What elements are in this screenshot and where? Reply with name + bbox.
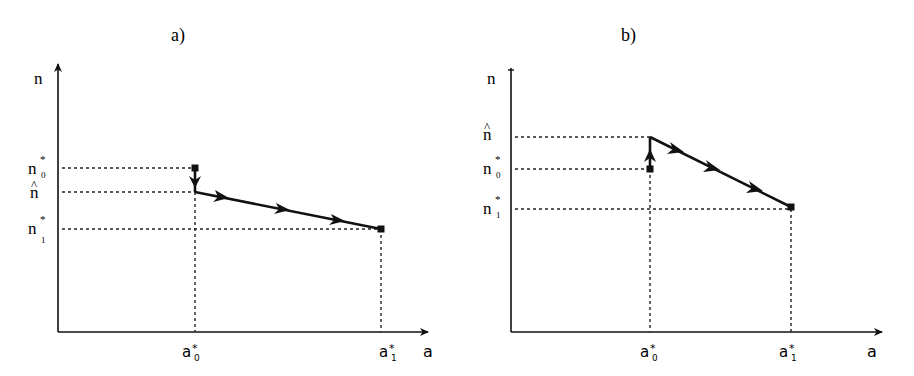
tick-a1-star: a * 1 [379,342,397,363]
svg-text:1: 1 [391,353,397,363]
panel-b-x-axis-label: a [867,342,877,361]
svg-text:n: n [483,199,492,218]
tick-n0-star: n * 0 [28,153,46,180]
tick-n-hat: n ^ [30,177,39,202]
tick-n-hat: n ^ [483,119,492,144]
panel-a-path [189,165,385,233]
svg-text:a: a [182,343,191,361]
svg-text:n: n [483,159,492,178]
tick-n1-star: n * 1 [483,193,501,220]
panel-b-y-ticks: n ^ n * 0 n * 1 [483,119,501,220]
svg-text:*: * [495,153,501,165]
svg-text:0: 0 [496,170,501,180]
svg-text:n: n [28,159,37,178]
diagram-canvas: a) n a [0,0,914,376]
svg-text:^: ^ [31,177,37,192]
panel-a-guides [62,168,381,332]
tick-a0-star: a * 0 [640,342,658,363]
panel-b-y-axis-label: n [487,69,496,88]
panel-b-x-ticks: a * 0 a * 1 [640,342,797,363]
end-point-marker [788,204,795,211]
svg-text:0: 0 [41,170,46,180]
svg-text:0: 0 [194,353,200,363]
tick-n1-star: n * 1 [28,213,46,245]
panel-b: b) n a n ^ [483,25,882,363]
tick-a1-star: a * 1 [779,342,797,363]
tick-n0-star: n * 0 [483,153,501,180]
svg-text:1: 1 [791,353,797,363]
panel-a-title: a) [171,25,185,46]
end-point-marker [378,226,385,233]
svg-text:1: 1 [496,210,501,220]
svg-text:*: * [40,153,46,165]
panel-a-x-ticks: a * 0 a * 1 [182,342,397,363]
panel-b-path [644,137,795,211]
svg-text:*: * [495,193,501,205]
svg-text:n: n [28,219,37,238]
svg-text:a: a [779,343,788,361]
svg-text:1: 1 [41,235,46,245]
panel-b-title: b) [621,25,636,46]
svg-text:a: a [640,343,649,361]
panel-a-y-axis-label: n [34,69,43,88]
panel-a-y-ticks: n * 0 n ^ n * 1 [28,153,46,245]
svg-text:*: * [40,213,46,225]
tick-a0-star: a * 0 [182,342,200,363]
svg-text:^: ^ [484,119,490,134]
panel-a-x-axis-label: a [423,342,433,361]
panel-a: a) n a [28,25,433,363]
svg-text:a: a [379,343,388,361]
svg-text:0: 0 [652,353,658,363]
